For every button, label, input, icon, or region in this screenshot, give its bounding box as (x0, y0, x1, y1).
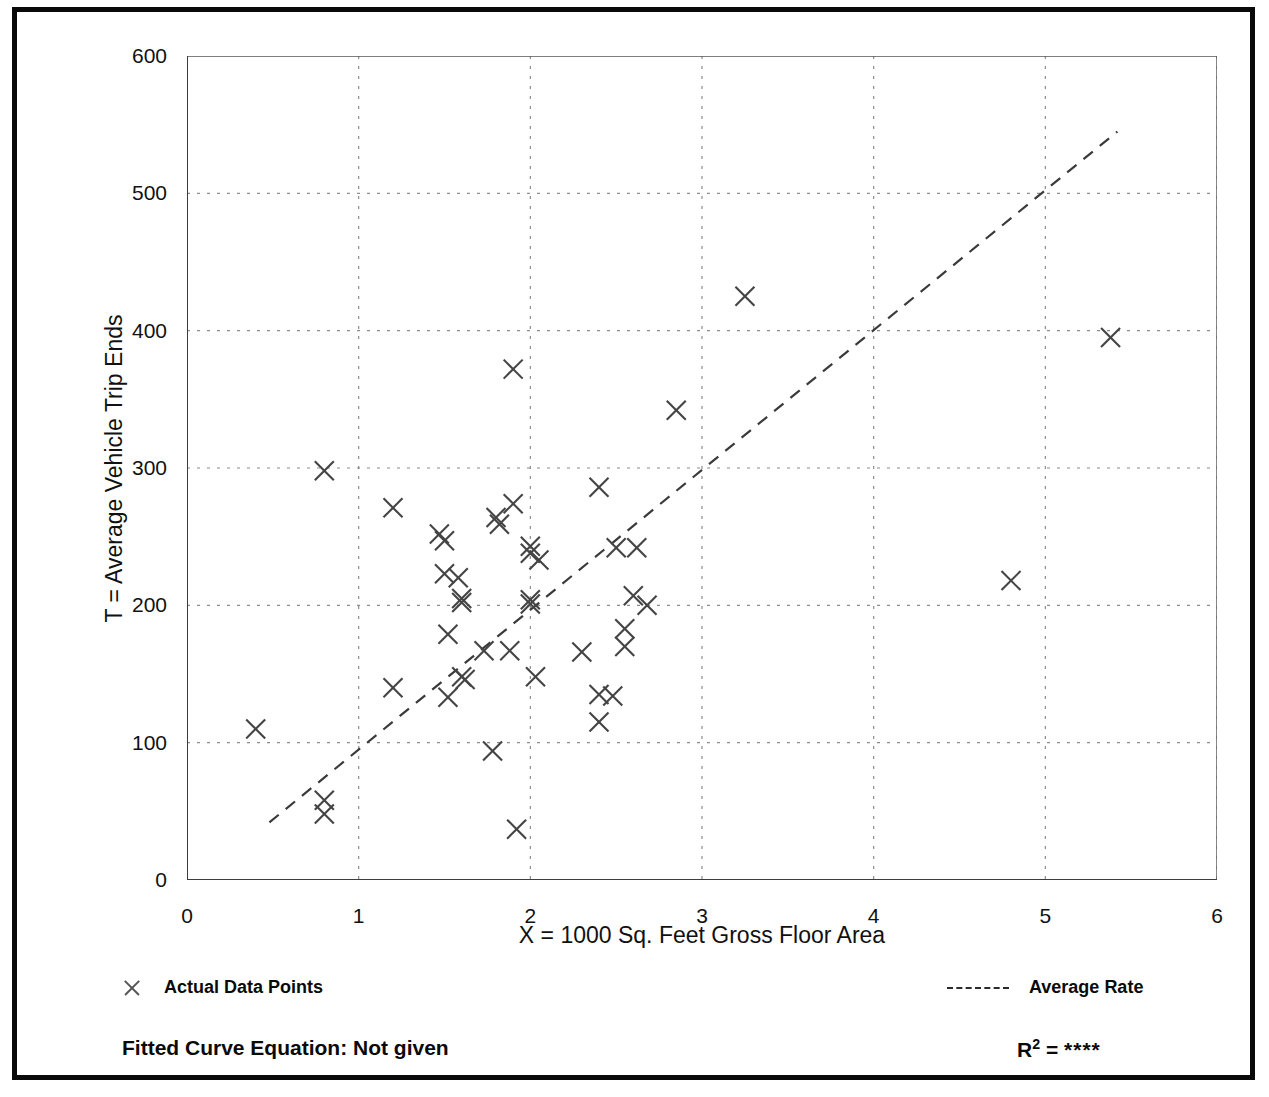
data-point-marker (638, 596, 657, 615)
data-point-marker (435, 564, 454, 583)
y-tick-label: 400 (92, 319, 167, 343)
data-point-marker (529, 551, 548, 570)
legend: Actual Data Points Average Rate (17, 977, 1260, 1017)
data-point-marker (435, 531, 454, 550)
data-points-layer (246, 287, 1120, 839)
footer: Fitted Curve Equation: Not given R2 = **… (17, 1032, 1260, 1076)
r-squared-stars: **** (1064, 1038, 1101, 1061)
data-point-marker (384, 498, 403, 517)
data-point-marker (452, 589, 471, 608)
legend-item-actual-data-points: Actual Data Points (122, 977, 323, 998)
data-point-marker (590, 478, 609, 497)
data-point-marker (246, 719, 265, 738)
legend-item-average-rate: Average Rate (947, 977, 1143, 998)
data-point-marker (504, 494, 523, 513)
data-point-marker (624, 586, 643, 605)
scatter-figure: T = Average Vehicle Trip Ends 0100200300… (17, 12, 1260, 1085)
plot-area (187, 56, 1217, 880)
y-tick-label: 600 (92, 44, 167, 68)
legend-label-actual-data-points: Actual Data Points (164, 977, 323, 998)
trendline (269, 132, 1117, 823)
data-point-marker (526, 667, 545, 686)
data-point-marker (438, 688, 457, 707)
data-point-marker (590, 713, 609, 732)
data-point-marker (504, 360, 523, 379)
data-point-marker (487, 508, 506, 527)
y-tick-label: 300 (92, 456, 167, 480)
data-point-marker (1002, 571, 1021, 590)
y-tick-label: 200 (92, 593, 167, 617)
r-squared-prefix: R (1017, 1038, 1032, 1061)
r-squared-exponent: 2 (1032, 1036, 1040, 1052)
data-point-marker (490, 515, 509, 534)
plot-svg (187, 56, 1217, 880)
y-tick-label: 0 (92, 868, 167, 892)
grid-layer (187, 56, 1217, 880)
data-point-marker (483, 741, 502, 760)
average-rate-trendline (269, 132, 1117, 823)
data-point-marker (384, 678, 403, 697)
data-point-marker (315, 805, 334, 824)
y-tick-label: 100 (92, 731, 167, 755)
r-squared-equals: = (1040, 1038, 1064, 1061)
data-point-marker (603, 686, 622, 705)
x-marker-icon (122, 978, 142, 998)
data-point-marker (315, 461, 334, 480)
data-point-marker (507, 820, 526, 839)
data-point-marker (449, 568, 468, 587)
data-point-marker (627, 538, 646, 557)
fitted-curve-equation: Fitted Curve Equation: Not given (122, 1036, 449, 1060)
data-point-marker (735, 287, 754, 306)
x-axis-title: X = 1000 Sq. Feet Gross Floor Area (187, 922, 1217, 949)
data-point-marker (1101, 328, 1120, 347)
figure-frame: T = Average Vehicle Trip Ends 0100200300… (12, 7, 1255, 1080)
data-point-marker (474, 641, 493, 660)
dashed-line-icon (947, 987, 1009, 989)
data-point-marker (615, 637, 634, 656)
r-squared-value: R2 = **** (1017, 1036, 1101, 1062)
legend-label-average-rate: Average Rate (1029, 977, 1143, 998)
data-point-marker (667, 401, 686, 420)
data-point-marker (572, 643, 591, 662)
data-point-marker (452, 593, 471, 612)
data-point-marker (500, 641, 519, 660)
data-point-marker (438, 625, 457, 644)
y-tick-label: 500 (92, 181, 167, 205)
data-point-marker (615, 619, 634, 638)
chart-page: T = Average Vehicle Trip Ends 0100200300… (0, 0, 1269, 1097)
